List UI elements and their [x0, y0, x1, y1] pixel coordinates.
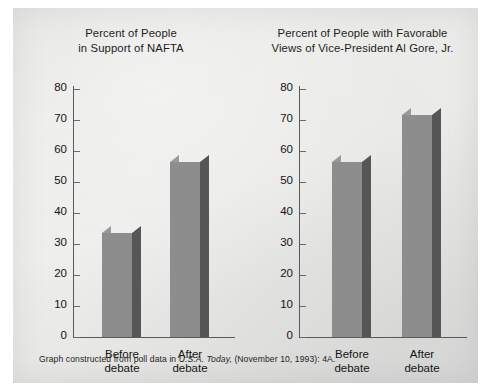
bar-before-debate[interactable]: Before debate: [332, 162, 362, 337]
y-tick-label-70: 70: [267, 112, 293, 124]
source-caption-publication: U.S.A. Today,: [179, 354, 232, 364]
plot-area-right: 0 10 20 30 40 50 60 70 80 Before debate: [299, 90, 465, 338]
y-tick-label-10: 10: [267, 298, 293, 310]
y-tick-label-30: 30: [41, 236, 67, 248]
source-caption-suffix: (November 10, 1993): 4A.: [232, 354, 335, 364]
bar-front-face: [402, 115, 432, 337]
y-tick-label-60: 60: [41, 143, 67, 155]
x-label-after-debate: After debate: [376, 347, 468, 375]
source-caption: Graph constructed from poll data in U.S.…: [39, 354, 335, 364]
y-tick-50: 50: [300, 182, 306, 183]
bar-side-face: [362, 162, 371, 337]
y-tick-30: 30: [300, 244, 306, 245]
y-tick-60: 60: [74, 151, 80, 152]
source-caption-prefix: Graph constructed from poll data in: [39, 354, 179, 364]
y-tick-50: 50: [74, 182, 80, 183]
y-axis-left: [73, 86, 74, 338]
y-tick-10: 10: [300, 306, 306, 307]
bar-top-face: [402, 108, 411, 115]
y-tick-80: 80: [300, 89, 306, 90]
bar-side-face: [132, 233, 141, 337]
bar-after-debate[interactable]: After debate: [170, 162, 200, 337]
x-axis-left: [73, 337, 235, 338]
chart-title-right: Percent of People with Favorable Views o…: [247, 26, 478, 55]
chart-title-left: Percent of People in Support of NAFTA: [15, 26, 247, 55]
y-tick-20: 20: [300, 275, 306, 276]
bar-top-face: [332, 155, 341, 162]
bar-front-face: [102, 233, 132, 337]
bar-top-face: [170, 155, 179, 162]
y-tick-30: 30: [74, 244, 80, 245]
bar-front-face: [170, 162, 200, 337]
y-tick-label-40: 40: [267, 205, 293, 217]
scanned-figure-panel: Percent of People in Support of NAFTA 0 …: [13, 8, 478, 383]
y-tick-40: 40: [74, 213, 80, 214]
charts-row: Percent of People in Support of NAFTA 0 …: [13, 8, 478, 348]
bar-side-face: [432, 115, 441, 337]
figure-root: Percent of People in Support of NAFTA 0 …: [0, 0, 491, 391]
y-tick-label-40: 40: [41, 205, 67, 217]
y-tick-label-80: 80: [41, 81, 67, 93]
y-tick-label-50: 50: [267, 174, 293, 186]
y-tick-label-60: 60: [267, 143, 293, 155]
x-axis-right: [299, 337, 467, 338]
y-axis-right: [299, 86, 300, 338]
y-tick-80: 80: [74, 89, 80, 90]
bar-side-face: [200, 162, 209, 337]
chart-nafta-support: Percent of People in Support of NAFTA 0 …: [15, 8, 247, 348]
y-tick-60: 60: [300, 151, 306, 152]
bar-after-debate[interactable]: After debate: [402, 115, 432, 337]
y-tick-40: 40: [300, 213, 306, 214]
y-tick-0: 0: [74, 337, 80, 338]
y-tick-label-70: 70: [41, 112, 67, 124]
plot-area-left: 0 10 20 30 40 50 60 70 80 Before debate: [73, 90, 233, 338]
y-tick-20: 20: [74, 275, 80, 276]
y-tick-label-30: 30: [267, 236, 293, 248]
y-tick-label-20: 20: [267, 267, 293, 279]
y-tick-label-0: 0: [41, 329, 67, 341]
bar-before-debate[interactable]: Before debate: [102, 233, 132, 337]
y-tick-10: 10: [74, 306, 80, 307]
bar-front-face: [332, 162, 362, 337]
y-tick-label-0: 0: [267, 329, 293, 341]
y-tick-label-20: 20: [41, 267, 67, 279]
y-tick-label-80: 80: [267, 81, 293, 93]
y-tick-0: 0: [300, 337, 306, 338]
chart-gore-favorability: Percent of People with Favorable Views o…: [247, 8, 478, 348]
y-tick-70: 70: [74, 120, 80, 121]
y-tick-label-10: 10: [41, 298, 67, 310]
bar-top-face: [102, 226, 111, 233]
y-tick-70: 70: [300, 120, 306, 121]
y-tick-label-50: 50: [41, 174, 67, 186]
